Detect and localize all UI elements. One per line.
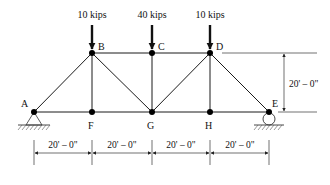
member-BG xyxy=(92,53,152,112)
truss-diagram: 10 kips 40 kips 10 kips A B C D E F G H … xyxy=(0,0,330,185)
load-label-C: 40 kips xyxy=(137,9,166,20)
joint-F xyxy=(89,109,95,115)
dim-label-FG: 20' – 0" xyxy=(107,140,136,150)
joint-H xyxy=(207,109,213,115)
dim-label-HE: 20' – 0" xyxy=(225,140,254,150)
node-label-A: A xyxy=(21,98,29,109)
node-label-C: C xyxy=(158,41,165,52)
dim-label-GH: 20' – 0" xyxy=(166,140,195,150)
node-label-E: E xyxy=(272,98,278,109)
node-label-F: F xyxy=(88,120,94,131)
node-label-H: H xyxy=(205,120,212,131)
joint-B xyxy=(89,50,95,56)
horizontal-dimensions: 20' – 0" 20' – 0" 20' – 0" 20' – 0" xyxy=(34,140,269,165)
ground-hatch-E xyxy=(254,125,282,130)
joint-A xyxy=(31,109,37,115)
node-label-G: G xyxy=(147,120,154,131)
joint-C xyxy=(149,50,155,56)
node-label-B: B xyxy=(98,41,105,52)
joint-D xyxy=(207,50,213,56)
truss-members xyxy=(34,53,269,112)
joint-E xyxy=(266,109,272,115)
dim-label-AF: 20' – 0" xyxy=(48,140,77,150)
joint-G xyxy=(149,109,155,115)
member-DE xyxy=(210,53,269,112)
node-label-D: D xyxy=(216,41,223,52)
ground-hatch-A xyxy=(18,125,50,130)
member-GD xyxy=(152,53,210,112)
load-label-B: 10 kips xyxy=(77,9,106,20)
vertical-dimension: 20' – 0" xyxy=(222,53,318,112)
dim-label-height: 20' – 0" xyxy=(289,79,318,89)
load-label-D: 10 kips xyxy=(195,9,224,20)
roller-support-E xyxy=(254,113,284,130)
member-AB xyxy=(34,53,92,112)
